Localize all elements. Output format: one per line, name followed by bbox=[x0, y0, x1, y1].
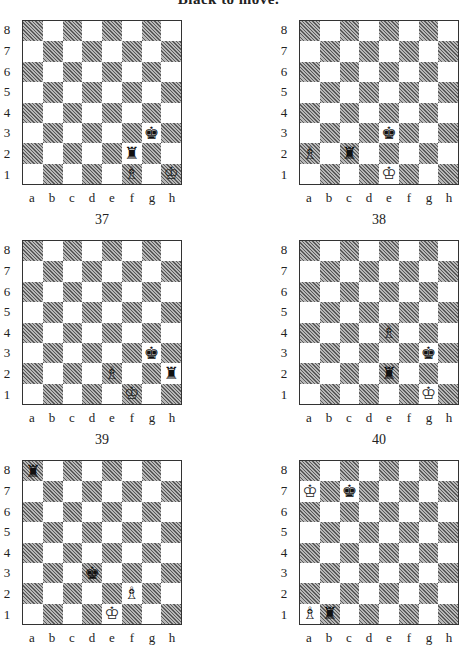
square-d2 bbox=[82, 143, 102, 163]
file-label: a bbox=[22, 630, 42, 646]
square-b6 bbox=[320, 282, 340, 302]
square-a4 bbox=[300, 543, 320, 563]
file-label: f bbox=[399, 190, 419, 206]
black-rook-icon: ♜ bbox=[322, 605, 337, 622]
square-f6 bbox=[122, 282, 142, 302]
square-f6 bbox=[122, 502, 142, 522]
rank-label: 3 bbox=[0, 343, 14, 364]
square-h2 bbox=[438, 363, 458, 383]
rank-label: 7 bbox=[0, 41, 14, 62]
square-a2 bbox=[23, 583, 43, 603]
square-d4 bbox=[359, 543, 379, 563]
square-a6 bbox=[23, 62, 43, 82]
square-b4 bbox=[43, 103, 63, 123]
square-a3 bbox=[23, 343, 43, 363]
square-e1 bbox=[379, 604, 399, 624]
white-king-icon: ♔ bbox=[381, 165, 396, 182]
white-bishop-icon: ♗ bbox=[124, 585, 139, 602]
square-e3 bbox=[102, 563, 122, 583]
square-e1: ♔ bbox=[379, 164, 399, 184]
file-labels: abcdefgh bbox=[299, 630, 459, 646]
square-b3 bbox=[320, 123, 340, 143]
square-a2 bbox=[23, 363, 43, 383]
square-a8 bbox=[300, 461, 320, 481]
square-a7 bbox=[23, 261, 43, 281]
square-d3 bbox=[359, 123, 379, 143]
square-e7 bbox=[102, 481, 122, 501]
square-d5 bbox=[359, 522, 379, 542]
square-a8 bbox=[23, 241, 43, 261]
square-d3 bbox=[82, 343, 102, 363]
square-b5 bbox=[320, 522, 340, 542]
square-h5 bbox=[161, 522, 181, 542]
square-f3 bbox=[399, 123, 419, 143]
square-b8 bbox=[320, 461, 340, 481]
square-g8 bbox=[419, 461, 439, 481]
square-c1 bbox=[63, 604, 83, 624]
rank-label: 2 bbox=[0, 584, 14, 605]
square-g2 bbox=[142, 143, 162, 163]
square-g2 bbox=[142, 363, 162, 383]
square-h8 bbox=[438, 461, 458, 481]
rank-label: 2 bbox=[0, 144, 14, 165]
square-d7 bbox=[82, 261, 102, 281]
square-b8 bbox=[320, 21, 340, 41]
square-g8 bbox=[142, 241, 162, 261]
square-a5 bbox=[23, 302, 43, 322]
square-d4 bbox=[82, 543, 102, 563]
square-b8 bbox=[43, 21, 63, 41]
square-b1 bbox=[320, 164, 340, 184]
diagram-number: 38 bbox=[299, 212, 459, 228]
square-h7 bbox=[161, 481, 181, 501]
square-g5 bbox=[419, 302, 439, 322]
square-c6 bbox=[63, 282, 83, 302]
square-b8 bbox=[43, 461, 63, 481]
square-e2 bbox=[102, 143, 122, 163]
rank-label: 4 bbox=[0, 323, 14, 344]
rank-label: 4 bbox=[0, 543, 14, 564]
square-d7 bbox=[82, 41, 102, 61]
square-d6 bbox=[359, 502, 379, 522]
file-label: h bbox=[439, 630, 459, 646]
square-c2 bbox=[340, 363, 360, 383]
rank-labels: 87654321 bbox=[0, 460, 14, 625]
square-d3 bbox=[359, 563, 379, 583]
square-c7 bbox=[63, 481, 83, 501]
square-h8 bbox=[161, 461, 181, 481]
square-a8: ♜ bbox=[23, 461, 43, 481]
square-f3 bbox=[399, 563, 419, 583]
file-label: g bbox=[142, 190, 162, 206]
square-h7 bbox=[161, 261, 181, 281]
file-labels: abcdefgh bbox=[22, 630, 182, 646]
white-king-icon: ♔ bbox=[124, 385, 139, 402]
rank-labels: 87654321 bbox=[277, 460, 291, 625]
square-b1: ♜ bbox=[320, 604, 340, 624]
square-d7 bbox=[359, 261, 379, 281]
square-b4 bbox=[320, 543, 340, 563]
square-h3 bbox=[438, 563, 458, 583]
file-label: d bbox=[359, 410, 379, 426]
file-label: d bbox=[82, 630, 102, 646]
rank-label: 8 bbox=[277, 460, 291, 481]
rank-label: 2 bbox=[0, 364, 14, 385]
file-label: d bbox=[359, 630, 379, 646]
file-label: d bbox=[82, 190, 102, 206]
square-c7 bbox=[340, 261, 360, 281]
square-h4 bbox=[438, 323, 458, 343]
square-c2: ♜ bbox=[340, 143, 360, 163]
square-a1 bbox=[23, 384, 43, 404]
square-d2 bbox=[82, 363, 102, 383]
square-d2 bbox=[359, 143, 379, 163]
file-label: a bbox=[22, 190, 42, 206]
square-f8 bbox=[399, 461, 419, 481]
square-g6 bbox=[419, 282, 439, 302]
square-b1 bbox=[320, 384, 340, 404]
square-g2 bbox=[419, 583, 439, 603]
rank-label: 1 bbox=[0, 164, 14, 185]
rank-label: 7 bbox=[277, 261, 291, 282]
file-label: g bbox=[142, 410, 162, 426]
square-d8 bbox=[82, 241, 102, 261]
square-c1 bbox=[63, 384, 83, 404]
square-d4 bbox=[359, 323, 379, 343]
rank-label: 6 bbox=[277, 501, 291, 522]
